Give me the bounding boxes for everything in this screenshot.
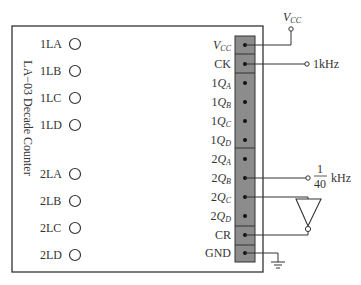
clock-terminal[interactable] [305, 62, 309, 66]
svg-text:2QB: 2QB [211, 171, 231, 186]
module-title: LA−03 Decade Counter [21, 60, 35, 175]
input-label: 2LC [40, 221, 61, 235]
input-label: 1LD [40, 118, 62, 132]
input-label: 2LD [40, 248, 62, 262]
input-jack-2ld[interactable] [70, 250, 81, 261]
input-label: 2LA [40, 167, 62, 181]
pin-1qb[interactable] [243, 100, 247, 104]
pin-1qd[interactable] [243, 138, 247, 142]
svg-text:2QC: 2QC [211, 190, 232, 205]
input-label: 1LB [40, 64, 61, 78]
svg-text:1QB: 1QB [211, 95, 231, 110]
svg-text:40: 40 [314, 177, 326, 191]
svg-text:1QA: 1QA [211, 76, 231, 91]
svg-text:2QA: 2QA [211, 152, 231, 167]
vcc-label: VCC [283, 10, 302, 25]
svg-text:kHz: kHz [331, 171, 351, 185]
input-jack-2la[interactable] [70, 169, 81, 180]
svg-text:1: 1 [317, 162, 323, 176]
input-jack-1lb[interactable] [70, 66, 81, 77]
pin-labels: VCC CK 1QA 1QB 1QC 1QD 2QA 2QB 2QC 2QD C… [205, 38, 232, 260]
pin-2qd[interactable] [243, 214, 247, 218]
left-inputs: 1LA 1LB 1LC 1LD 2LA 2LB 2LC 2LD [40, 37, 81, 262]
output-freq-label: 1 40 kHz [314, 162, 351, 191]
input-label: 2LB [40, 194, 61, 208]
output-terminal[interactable] [306, 176, 310, 180]
svg-text:2QD: 2QD [211, 209, 232, 224]
svg-text:1QD: 1QD [211, 133, 232, 148]
svg-text:VCC: VCC [213, 38, 232, 53]
pin-strip [235, 36, 255, 262]
input-jack-1ld[interactable] [70, 120, 81, 131]
input-jack-2lb[interactable] [70, 196, 81, 207]
decade-counter-diagram: LA−03 Decade Counter 1LA 1LB 1LC 1LD 2LA… [0, 0, 361, 285]
input-jack-1lc[interactable] [70, 93, 81, 104]
input-label: 1LC [40, 91, 61, 105]
input-jack-1la[interactable] [70, 39, 81, 50]
svg-text:1QC: 1QC [211, 114, 232, 129]
inverter-gate [296, 199, 321, 232]
input-label: 1LA [40, 37, 62, 51]
svg-text:GND: GND [205, 246, 231, 260]
pin-1qa[interactable] [243, 81, 247, 85]
clock-label: 1kHz [313, 57, 339, 71]
svg-text:CR: CR [215, 228, 231, 242]
pin-2qa[interactable] [243, 157, 247, 161]
svg-text:CK: CK [214, 57, 231, 71]
input-jack-2lc[interactable] [70, 223, 81, 234]
pin-1qc[interactable] [243, 119, 247, 123]
vcc-terminal[interactable] [289, 27, 293, 31]
